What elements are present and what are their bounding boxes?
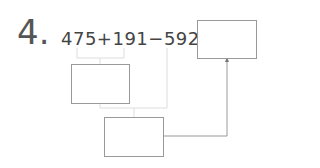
answer-box[interactable] — [197, 20, 257, 59]
intermediate-box-2[interactable] — [104, 117, 164, 157]
intermediate-box-1[interactable] — [71, 64, 130, 104]
